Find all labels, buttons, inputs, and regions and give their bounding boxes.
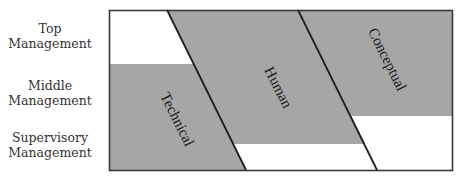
skills-diagram: Technical Human Conceptual [0,0,460,178]
